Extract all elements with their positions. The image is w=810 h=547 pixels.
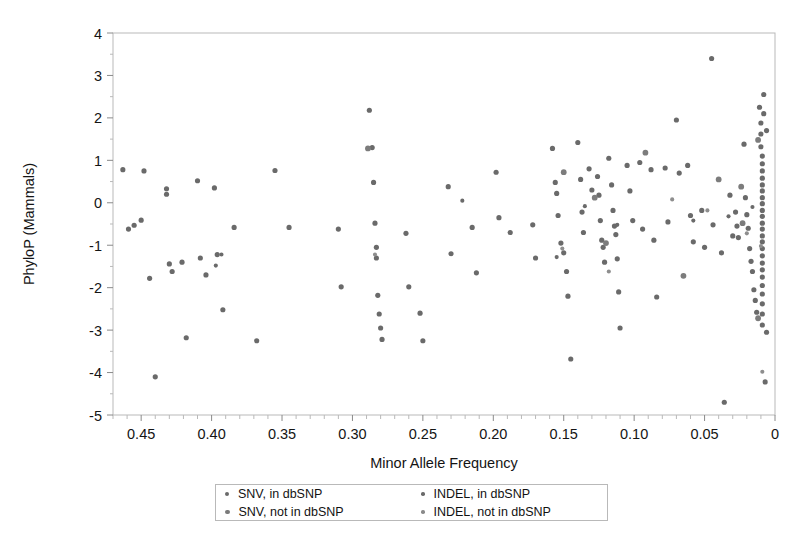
- data-point: [750, 205, 754, 209]
- data-point: [474, 270, 479, 275]
- legend-entry[interactable]: INDEL, in dbSNP: [412, 487, 608, 501]
- data-point: [494, 170, 499, 175]
- data-point: [763, 379, 768, 384]
- data-point: [373, 253, 377, 257]
- data-point: [568, 356, 573, 361]
- data-point: [758, 120, 763, 125]
- data-point: [719, 250, 724, 255]
- data-point: [722, 400, 727, 405]
- x-tick-label: 0.30: [338, 426, 366, 442]
- data-point: [530, 222, 535, 227]
- data-point: [710, 222, 715, 227]
- data-point: [379, 337, 384, 342]
- data-point: [374, 245, 379, 250]
- legend: SNV, in dbSNPINDEL, in dbSNPSNV, not in …: [215, 484, 608, 521]
- data-point: [587, 166, 592, 171]
- y-tick-label: 2: [94, 110, 102, 126]
- data-point: [367, 108, 372, 113]
- data-point: [691, 219, 695, 223]
- data-point: [691, 239, 696, 244]
- data-point: [219, 253, 223, 257]
- data-point: [740, 220, 746, 226]
- data-point: [699, 208, 704, 213]
- y-tick-label: 3: [94, 68, 102, 84]
- data-point: [746, 226, 751, 231]
- data-point: [141, 168, 146, 173]
- data-point: [759, 244, 763, 248]
- legend-entry[interactable]: SNV, not in dbSNP: [216, 505, 412, 519]
- data-point: [764, 128, 769, 133]
- data-point: [757, 105, 762, 110]
- data-point: [564, 269, 569, 274]
- data-point: [377, 311, 382, 316]
- data-point: [663, 165, 668, 170]
- legend-marker-icon: [421, 492, 425, 496]
- data-point: [170, 269, 175, 274]
- data-point: [747, 246, 752, 251]
- data-point: [179, 260, 184, 265]
- y-tick-label: -2: [89, 280, 102, 296]
- legend-label: SNV, not in dbSNP: [239, 505, 344, 519]
- x-axis-title: Minor Allele Frequency: [370, 455, 518, 471]
- data-point: [753, 298, 758, 303]
- data-point: [643, 150, 649, 156]
- data-point: [579, 210, 584, 215]
- data-point: [760, 227, 765, 232]
- data-point: [637, 160, 642, 165]
- y-axis-title: PhyloP (Mammals): [21, 163, 37, 285]
- data-point: [727, 193, 732, 198]
- scatter-plot-figure: 0.450.400.350.300.250.200.150.100.050432…: [0, 0, 810, 547]
- x-tick-label: 0.20: [479, 426, 507, 442]
- data-point: [598, 218, 603, 223]
- y-tick-label: 1: [94, 153, 102, 169]
- data-point: [203, 272, 208, 277]
- data-point: [760, 291, 765, 296]
- data-point: [508, 230, 513, 235]
- data-point: [212, 185, 217, 190]
- data-point: [702, 245, 707, 250]
- data-point: [760, 311, 765, 316]
- data-point: [167, 261, 172, 266]
- data-point: [760, 322, 765, 327]
- data-point: [560, 247, 564, 251]
- data-point: [674, 117, 679, 122]
- data-point: [709, 56, 714, 61]
- data-point: [761, 92, 766, 97]
- data-point: [254, 338, 259, 343]
- data-point: [602, 260, 607, 265]
- x-tick-label: 0.15: [550, 426, 578, 442]
- series-1: [365, 137, 761, 321]
- x-tick-label: 0: [771, 426, 779, 442]
- legend-entry[interactable]: SNV, in dbSNP: [216, 487, 412, 501]
- data-point: [147, 276, 152, 281]
- data-point: [558, 241, 563, 246]
- data-point: [760, 239, 765, 244]
- data-point: [640, 227, 645, 232]
- data-point: [615, 223, 619, 227]
- data-point: [336, 227, 341, 232]
- data-point: [272, 168, 277, 173]
- data-point: [654, 294, 659, 299]
- data-point: [760, 195, 765, 200]
- data-point: [460, 199, 464, 203]
- data-point: [615, 256, 620, 261]
- x-tick-label: 0.40: [197, 426, 225, 442]
- x-tick-label: 0.35: [268, 426, 296, 442]
- data-point: [741, 142, 746, 147]
- data-point: [745, 231, 749, 235]
- data-point: [595, 174, 600, 179]
- data-point: [617, 325, 622, 330]
- data-point: [705, 208, 709, 212]
- legend-marker-icon: [421, 510, 425, 514]
- data-point: [760, 201, 765, 206]
- data-point: [748, 259, 753, 264]
- data-point: [760, 154, 765, 159]
- data-point: [736, 235, 741, 240]
- data-point: [677, 170, 682, 175]
- data-point: [120, 167, 125, 172]
- data-point: [448, 251, 453, 256]
- legend-entry[interactable]: INDEL, not in dbSNP: [412, 505, 608, 519]
- data-point: [627, 188, 632, 193]
- data-point: [734, 224, 739, 229]
- data-point: [613, 232, 618, 237]
